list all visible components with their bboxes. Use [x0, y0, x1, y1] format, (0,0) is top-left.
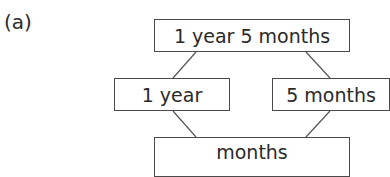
whole-box: 1 year 5 months — [154, 19, 350, 52]
part-label: (a) — [4, 10, 32, 34]
part-right-box: 5 months — [272, 78, 390, 111]
result-box: months — [154, 137, 350, 177]
part-left-box: 1 year — [114, 78, 230, 111]
